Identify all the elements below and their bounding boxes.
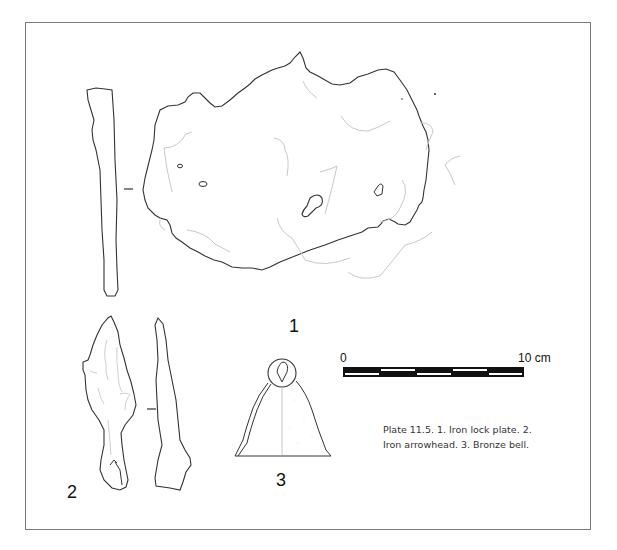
item-number-3: 3 bbox=[276, 470, 286, 491]
item-number-2: 2 bbox=[67, 482, 77, 503]
scale-end-label: 10 cm bbox=[518, 351, 551, 365]
lock-plate-section bbox=[87, 88, 118, 296]
artifact-drawings bbox=[0, 0, 617, 550]
arrowhead-front bbox=[83, 316, 136, 490]
scale-start-label: 0 bbox=[340, 351, 347, 365]
bronze-bell bbox=[235, 359, 331, 456]
arrowhead-profile bbox=[155, 318, 191, 490]
scale-bar bbox=[343, 367, 524, 377]
item-number-1: 1 bbox=[289, 316, 299, 337]
lock-plate-drawing bbox=[143, 52, 460, 278]
plate-caption: Plate 11.5. 1. Iron lock plate. 2. Iron … bbox=[383, 422, 553, 452]
